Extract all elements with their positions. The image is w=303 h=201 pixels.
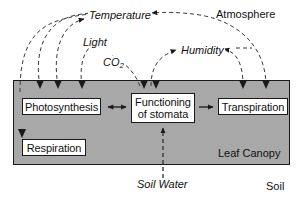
flow-temperature-to-respiration-left <box>20 13 118 92</box>
driver-label-temperature: Temperature <box>88 9 152 21</box>
node-photosynthesis[interactable]: Photosynthesis <box>22 98 101 115</box>
node-respiration-label: Respiration <box>27 142 82 154</box>
flow-light-to-photosynthesis <box>56 19 84 86</box>
node-respiration[interactable]: Respiration <box>22 139 86 156</box>
driver-label-co2: CO2 <box>102 56 125 70</box>
node-photosynthesis-label: Photosynthesis <box>25 101 98 113</box>
node-stomata-label: Functioning of stomata <box>135 96 191 121</box>
driver-label-light: Light <box>82 36 108 48</box>
region-label-leaf-canopy: Leaf Canopy <box>218 147 280 159</box>
node-stomata-label-line2: of stomata <box>138 108 188 120</box>
driver-label-soil-water: Soil Water <box>136 178 189 190</box>
region-label-atmosphere: Atmosphere <box>216 8 275 20</box>
arrowhead-respiration <box>18 129 26 138</box>
arrowhead-co2-stomata <box>140 80 148 89</box>
driver-label-co2-text: CO <box>103 56 120 68</box>
diagram-canvas: Photosynthesis Functioning of stomata Tr… <box>0 0 303 201</box>
node-functioning-of-stomata[interactable]: Functioning of stomata <box>131 93 195 123</box>
arrowhead-humidity-stomata <box>152 80 160 89</box>
node-transpiration-label: Transpiration <box>222 101 285 113</box>
arrowhead-co2-photosynthesis <box>78 80 86 89</box>
node-transpiration[interactable]: Transpiration <box>218 98 288 115</box>
node-stomata-label-line1: Functioning <box>135 96 191 108</box>
arrowhead-temperature-transpiration <box>262 80 270 89</box>
arrowhead-light-photosynthesis <box>54 80 62 89</box>
region-label-soil: Soil <box>266 180 284 192</box>
arrowhead-temperature-photosynthesis <box>36 80 44 89</box>
driver-label-co2-subscript: 2 <box>120 61 124 70</box>
arrowhead-humidity-transpiration <box>239 80 247 89</box>
driver-label-humidity: Humidity <box>180 44 225 56</box>
